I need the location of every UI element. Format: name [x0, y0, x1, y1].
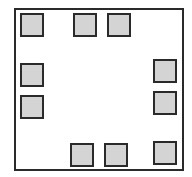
cell-right-upper — [153, 59, 177, 83]
cell-bottom-middle-1 — [70, 143, 94, 167]
cell-left-lower — [20, 95, 44, 119]
cell-left-upper — [20, 63, 44, 87]
cell-bottom-right — [153, 141, 177, 165]
cell-top-left — [20, 13, 44, 37]
cell-top-middle-2 — [107, 13, 131, 37]
cell-bottom-middle-2 — [104, 143, 128, 167]
cell-right-lower — [153, 91, 177, 115]
cell-top-middle-1 — [73, 13, 97, 37]
